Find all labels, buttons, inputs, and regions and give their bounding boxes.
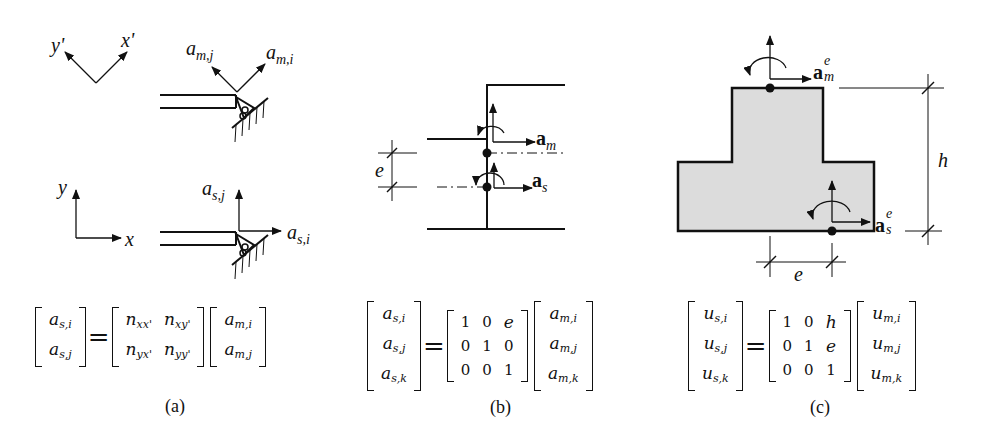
axis-label-y: y [58, 177, 67, 197]
lhs-vector: us,i us,j us,k [688, 301, 743, 391]
panel-a: y' x' am,j am,i y x as,j as,i as,i as,j … [0, 0, 330, 435]
caption-a: (a) [165, 396, 185, 417]
local-axes-icon [65, 52, 127, 83]
master-label: am [536, 128, 556, 153]
member-outline-icon [427, 85, 565, 229]
panel-b: am as e as,i as,j as,k = 10e 010 001 am,… [330, 0, 660, 435]
master-dof-arrows-icon [212, 64, 265, 92]
offset-label-e: e [375, 160, 384, 180]
caption-c: (c) [810, 397, 830, 418]
lower-member-support-icon [160, 232, 268, 279]
global-axes-icon [76, 190, 121, 238]
lhs-vector: as,i as,j [35, 307, 86, 367]
master-dof-label-j: am,j [186, 38, 214, 63]
slave-label: aes [875, 215, 899, 235]
master-node [766, 84, 775, 93]
lhs-vector: as,i as,j as,k [367, 301, 421, 391]
offset-label-e: e [794, 264, 803, 284]
master-node [483, 149, 492, 158]
rhs-vector: um,i um,j um,k [857, 301, 917, 391]
master-label: aem [813, 62, 837, 82]
panel-c: aem aes h e us,i us,j us,k = 10h 01e 001… [660, 0, 995, 435]
equation-c: us,i us,j us,k = 10h 01e 001 um,i um,j u… [688, 301, 916, 391]
slave-dof-label-j: as,j [202, 178, 225, 203]
upper-member-support-icon [160, 95, 268, 142]
rhs-vector: am,i am,j am,k [534, 301, 593, 391]
caption-b: (b) [490, 397, 511, 418]
transformation-matrix: 10e 010 001 [447, 310, 528, 382]
transformation-matrix: 10h 01e 001 [769, 310, 851, 382]
slave-dof-arrows-icon [239, 190, 281, 231]
section-shape [678, 88, 874, 231]
axis-label-x: x [125, 229, 134, 249]
equation-a: as,i as,j = nxx' nxy' nyx' nyy' am,i am,… [35, 307, 266, 367]
equation-b: as,i as,j as,k = 10e 010 001 am,i am,j a… [367, 301, 593, 391]
equals-sign: = [745, 331, 767, 361]
height-label-h: h [938, 150, 948, 170]
slave-node [828, 227, 837, 236]
equals-sign: = [423, 331, 445, 361]
equals-sign: = [88, 322, 110, 352]
master-dof-arrows-icon [749, 36, 811, 79]
master-dof-label-i: am,i [266, 42, 294, 67]
slave-label: as [532, 170, 547, 195]
axis-label-x-prime: x' [121, 30, 134, 50]
axis-label-y-prime: y' [51, 35, 64, 55]
slave-dof-label-i: as,i [287, 222, 310, 247]
rhs-vector: am,i am,j [210, 307, 266, 367]
transformation-matrix: nxx' nxy' nyx' nyy' [112, 307, 205, 367]
slave-node [483, 183, 492, 192]
